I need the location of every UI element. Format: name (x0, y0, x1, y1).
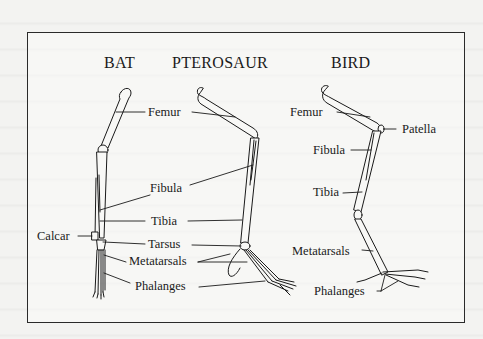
label-fibula: Fibula (150, 182, 182, 195)
label-calcar: Calcar (37, 230, 70, 243)
label-metatarsals: Metatarsals (129, 255, 187, 268)
leg-skeletons-illustration (0, 0, 483, 339)
label-femur: Femur (148, 106, 181, 119)
bird-label-femur: Femur (290, 106, 323, 119)
leader-lines (78, 112, 398, 291)
label-tarsus: Tarsus (148, 238, 180, 251)
bird-label-tibia: Tibia (313, 186, 339, 199)
bird-label-metatarsals: Metatarsals (292, 245, 350, 258)
bird-label-phalanges: Phalanges (314, 285, 365, 298)
label-phalanges: Phalanges (135, 280, 186, 293)
label-tibia: Tibia (151, 215, 177, 228)
bat-leg (92, 88, 131, 299)
bird-label-fibula: Fibula (313, 144, 345, 157)
bird-label-patella: Patella (402, 123, 436, 136)
pterosaur-leg (197, 87, 296, 295)
